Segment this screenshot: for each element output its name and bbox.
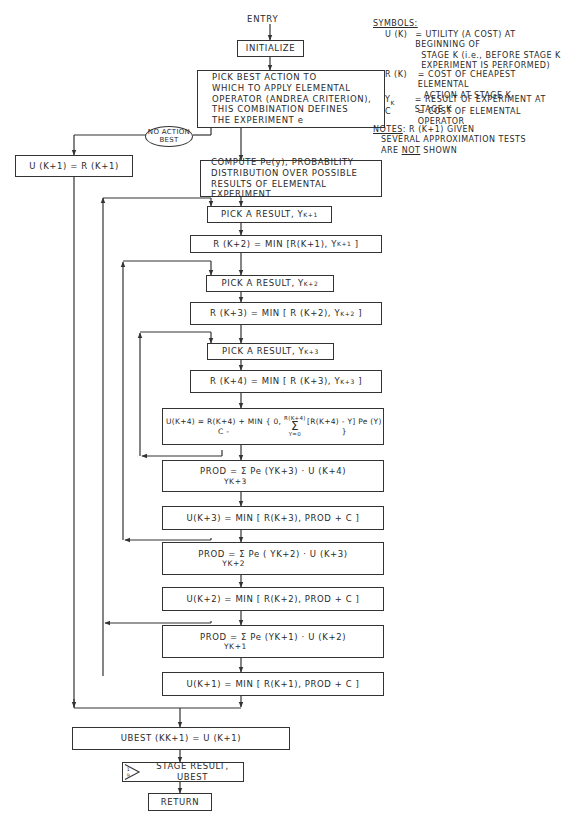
notes-line-3: ARE NOT SHOWN — [373, 146, 563, 156]
sum-lower-limit: Y=0 — [289, 432, 301, 437]
r-k4-close: ] — [355, 376, 362, 387]
symbol-u-k-def-2: STAGE K (i.e., BEFORE STAGE K — [415, 51, 565, 61]
notes-block: NOTES: R (K+1) GIVEN SEVERAL APPROXIMATI… — [373, 125, 563, 156]
prod-k2-tail: K+2) · U (K+3) — [276, 549, 348, 559]
pick-best-line-2: WHICH TO APPLY ELEMENTAL — [212, 83, 351, 94]
r-k3-close: ] — [355, 308, 362, 319]
r-k4-sub: K+3 — [340, 378, 355, 386]
symbols-heading: SYMBOLS: — [373, 19, 418, 29]
stage-result-box: 1 9 STAGE RESULT, UBEST — [122, 762, 244, 782]
compute-line-2: DISTRIBUTION OVER POSSIBLE — [211, 168, 358, 179]
prod-k3-formula: PROD = Σ Pe (YK+3) · U (K+4) YK+3 — [200, 466, 346, 486]
symbol-u-k-name: U (K) — [385, 30, 415, 72]
pick-best-action-box: PICK BEST ACTION TO WHICH TO APPLY ELEME… — [197, 70, 385, 128]
notes-line-2: SEVERAL APPROXIMATION TESTS — [373, 135, 563, 145]
u-k1-equals-r-box: U (K+1) = R (K+1) — [15, 155, 133, 177]
pick-best-line-3: OPERATOR (ANDREA CRITERION), — [212, 94, 371, 105]
pick-result-k2-box: PICK A RESULT, YK+2 — [206, 275, 334, 292]
compute-pe-box: COMPUTE Pe(y), PROBABILITY DISTRIBUTION … — [200, 160, 382, 197]
r-k4-text: R (K+4) = MIN [ R (K+3), Y — [210, 376, 340, 387]
initialize-box: INITIALIZE — [237, 40, 304, 57]
prod-k1-tail: K+1) · U (K+2) — [274, 632, 346, 642]
symbols-heading-text: SYMBOLS: — [373, 19, 418, 28]
compute-line-4: EXPERIMENT — [211, 189, 271, 200]
stage-result-text: STAGE RESULT, UBEST — [142, 761, 243, 782]
svg-text:9: 9 — [127, 773, 131, 778]
notes-line-3-pre: ARE — [381, 146, 402, 155]
u-k4-left: U(K+4) = R(K+4) + MIN { 0, C - — [163, 417, 284, 436]
pick-result-k3-box: PICK A RESULT, YK+3 — [207, 343, 334, 360]
entry-label: ENTRY — [247, 14, 278, 24]
notes-line-3-not: NOT — [402, 146, 421, 155]
pick-result-k2-text: PICK A RESULT, Y — [222, 278, 304, 289]
r-k3-sub: K+2 — [340, 310, 355, 318]
prod-k3-box: PROD = Σ Pe (YK+3) · U (K+4) YK+3 — [162, 460, 384, 492]
return-box: RETURN — [148, 793, 212, 811]
u-k2-box: U(K+2) = MIN [ R(K+2), PROD + C ] — [162, 587, 384, 611]
prod-k2-head: PROD = Σ Pe ( Y — [198, 549, 276, 559]
symbol-u-k: U (K) = UTILITY (A COST) AT BEGINNING OF… — [385, 30, 565, 72]
r-k3-box: R (K+3) = MIN [ R (K+2), YK+2 ] — [190, 302, 382, 325]
pick-result-k1-text: PICK A RESULT, Y — [221, 209, 303, 220]
r-k4-box: R (K+4) = MIN [ R (K+3), YK+3 ] — [190, 370, 382, 393]
notes-line-3-post: SHOWN — [420, 146, 457, 155]
ubest-box: UBEST (KK+1) = U (K+1) — [72, 727, 290, 750]
symbol-r-k-def-1: = COST OF CHEAPEST ELEMENTAL — [418, 70, 565, 91]
prod-k1-formula: PROD = Σ Pe (YK+1) · U (K+2) YK+1 — [200, 632, 346, 652]
pick-result-k1-sub: K+1 — [303, 211, 318, 219]
pick-best-line-5: THE EXPERIMENT e — [212, 115, 304, 126]
u-k4-box: U(K+4) = R(K+4) + MIN { 0, C - R(K+4) Σ … — [162, 408, 384, 445]
offpage-connector-icon: 1 9 — [124, 763, 141, 781]
r-k3-text: R (K+3) = MIN [ R (K+2), Y — [210, 308, 340, 319]
pick-result-k1-box: PICK A RESULT, YK+1 — [207, 206, 332, 223]
u-k4-right: [R(K+4) - Y] Pe (Y) } — [306, 417, 383, 436]
pick-result-k3-text: PICK A RESULT, Y — [222, 346, 304, 357]
u-k3-box: U(K+3) = MIN [ R(K+3), PROD + C ] — [162, 506, 384, 530]
prod-k2-formula: PROD = Σ Pe ( YK+2) · U (K+3) YK+2 — [198, 549, 347, 569]
no-action-line-2: BEST — [159, 137, 178, 144]
prod-k3-tail: K+3) · U (K+4) — [274, 466, 346, 476]
prod-k3-head: PROD = Σ Pe (Y — [200, 466, 275, 476]
pick-best-line-4: THIS COMBINATION DEFINES — [212, 104, 348, 115]
prod-k2-under: YK+2 — [198, 559, 245, 568]
prod-k1-box: PROD = Σ Pe (YK+1) · U (K+2) YK+1 — [162, 625, 384, 658]
pick-best-line-1: PICK BEST ACTION TO — [212, 72, 317, 83]
symbol-u-k-def: = UTILITY (A COST) AT BEGINNING OF STAGE… — [415, 30, 565, 72]
notes-line-1: : R (K+1) GIVEN — [403, 125, 475, 134]
prod-k3-under: YK+3 — [200, 477, 247, 486]
r-k2-text: R (K+2) = MIN [R(K+1), Y — [213, 239, 337, 250]
svg-text:1: 1 — [127, 767, 131, 772]
pick-result-k2-sub: K+2 — [304, 280, 319, 288]
prod-k2-box: PROD = Σ Pe ( YK+2) · U (K+3) YK+2 — [162, 542, 384, 575]
compute-line-3: RESULTS OF ELEMENTAL — [211, 179, 327, 190]
r-k2-sub: K+1 — [337, 240, 352, 248]
u-k1-box: U(K+1) = MIN [ R(K+1), PROD + C ] — [162, 672, 384, 696]
compute-line-1: COMPUTE Pe(y), PROBABILITY — [211, 157, 354, 168]
pick-result-k3-sub: K+3 — [304, 348, 319, 356]
no-action-best-oval: NO ACTION BEST — [145, 126, 193, 147]
notes-heading: NOTES — [373, 125, 403, 134]
r-k2-box: R (K+2) = MIN [R(K+1), YK+1 ] — [190, 235, 382, 253]
summation-symbol: R(K+4) Σ Y=0 — [284, 416, 306, 438]
prod-k1-under: YK+1 — [200, 642, 247, 651]
prod-k1-head: PROD = Σ Pe (Y — [200, 632, 275, 642]
symbol-u-k-def-1: = UTILITY (A COST) AT BEGINNING OF — [415, 30, 565, 51]
r-k2-close: ] — [352, 239, 359, 250]
